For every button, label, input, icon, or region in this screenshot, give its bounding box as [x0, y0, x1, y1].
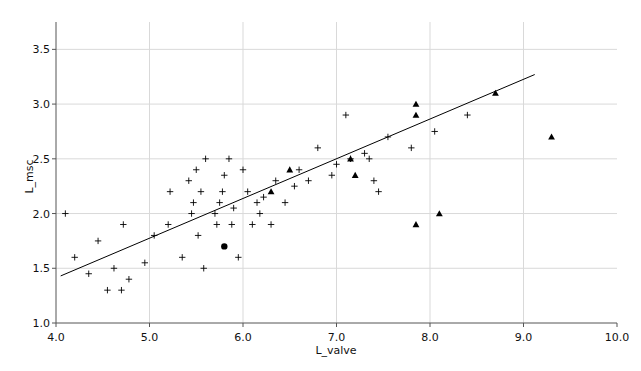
data-point-plus: [118, 287, 124, 293]
y-tick-label: 1.0: [20, 317, 50, 330]
data-point-plus: [229, 221, 235, 227]
data-point-triangle: [413, 221, 420, 227]
data-point-plus: [95, 238, 101, 244]
y-tick-label: 3.5: [20, 43, 50, 56]
data-point-plus: [371, 178, 377, 184]
data-point-plus: [249, 221, 255, 227]
data-point-plus: [167, 188, 173, 194]
data-point-plus: [240, 167, 246, 173]
data-point-plus: [179, 254, 185, 260]
data-point-plus: [464, 112, 470, 118]
data-point-plus: [230, 205, 236, 211]
data-point-plus: [188, 210, 194, 216]
x-tick-label: 6.0: [234, 331, 252, 344]
scatter-plot: [0, 0, 641, 371]
y-tick-label: 1.5: [20, 262, 50, 275]
data-point-plus: [198, 188, 204, 194]
data-point-triangle: [268, 188, 275, 194]
data-point-plus: [190, 199, 196, 205]
data-point-plus: [62, 210, 68, 216]
data-point-plus: [291, 183, 297, 189]
data-point-plus: [235, 254, 241, 260]
chart-canvas: [0, 0, 641, 371]
y-tick-label: 3.0: [20, 98, 50, 111]
x-tick-label: 8.0: [421, 331, 439, 344]
x-tick-label: 10.0: [605, 331, 630, 344]
data-point-plus: [296, 167, 302, 173]
data-point-plus: [111, 265, 117, 271]
data-point-plus: [214, 221, 220, 227]
data-point-plus: [268, 221, 274, 227]
data-point-plus: [86, 271, 92, 277]
data-point-plus: [219, 188, 225, 194]
data-point-plus: [216, 199, 222, 205]
data-point-plus: [305, 178, 311, 184]
data-point-plus: [186, 178, 192, 184]
data-point-plus: [361, 150, 367, 156]
data-point-plus: [315, 145, 321, 151]
data-point-plus: [329, 172, 335, 178]
data-point-plus: [226, 156, 232, 162]
data-point-plus: [202, 156, 208, 162]
figure-container: L_msc L_valve 4.05.06.07.08.09.010.01.01…: [0, 0, 641, 371]
data-point-triangle: [548, 134, 555, 140]
data-point-plus: [282, 199, 288, 205]
data-point-plus: [254, 199, 260, 205]
data-point-plus: [195, 232, 201, 238]
data-point-plus: [333, 161, 339, 167]
data-point-plus: [104, 287, 110, 293]
data-point-plus: [244, 188, 250, 194]
data-point-plus: [431, 128, 437, 134]
data-point-plus: [257, 210, 263, 216]
data-point-plus: [120, 221, 126, 227]
regression-line: [61, 75, 535, 276]
data-point-triangle: [352, 172, 359, 178]
x-tick-label: 9.0: [515, 331, 533, 344]
data-point-plus: [142, 260, 148, 266]
data-point-plus: [221, 172, 227, 178]
data-point-plus: [72, 254, 78, 260]
data-point-plus: [366, 156, 372, 162]
data-point-plus: [126, 276, 132, 282]
x-tick-label: 7.0: [328, 331, 346, 344]
x-axis-title: L_valve: [315, 344, 356, 357]
data-point-plus: [165, 221, 171, 227]
data-point-triangle: [413, 112, 420, 118]
data-point-plus: [201, 265, 207, 271]
data-point-plus: [260, 194, 266, 200]
x-tick-label: 5.0: [141, 331, 159, 344]
data-point-plus: [343, 112, 349, 118]
data-point-plus: [385, 134, 391, 140]
data-point-plus: [375, 188, 381, 194]
data-point-plus: [193, 167, 199, 173]
data-point-plus: [408, 145, 414, 151]
y-tick-label: 2.5: [20, 152, 50, 165]
data-point-triangle: [286, 166, 293, 172]
y-tick-label: 2.0: [20, 207, 50, 220]
data-point-circle: [221, 243, 227, 249]
data-point-plus: [273, 178, 279, 184]
x-tick-label: 4.0: [47, 331, 65, 344]
figure-caption: [8, 360, 633, 371]
